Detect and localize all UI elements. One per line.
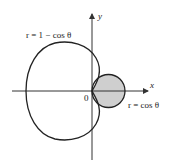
y-axis-label: y: [97, 11, 102, 21]
x-axis-label: x: [149, 80, 154, 90]
origin-label: 0: [84, 93, 89, 103]
circle-equation-label: r = cos θ: [128, 100, 159, 110]
polar-diagram: y x 0 r = 1 − cos θ r = cos θ: [0, 0, 172, 162]
cardioid-equation-label: r = 1 − cos θ: [26, 30, 71, 40]
